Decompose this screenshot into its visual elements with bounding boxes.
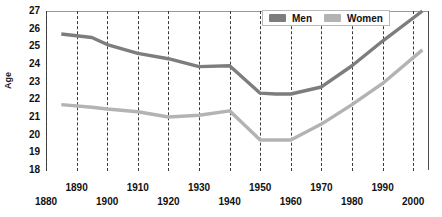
legend-item-men: Men [269,13,312,24]
y-axis-tick-label: 19 [14,147,40,157]
x-axis-tick-label: 1920 [157,196,179,207]
x-axis-tick-label: 1890 [65,182,87,193]
legend-label: Men [292,13,312,24]
gridline [352,11,353,171]
x-axis-tick-label: 1970 [310,182,332,193]
y-axis-tick-labels: 27262524232221201918 [14,0,40,217]
y-axis-tick-label: 21 [14,112,40,122]
x-axis-tick-label: 1880 [35,196,57,207]
gridline [107,11,108,171]
x-axis-tick-label: 1930 [188,182,210,193]
plot-area [46,11,429,170]
y-axis-tick-label: 27 [14,6,40,16]
x-axis-tick-label: 1900 [96,196,118,207]
gridline [383,11,384,171]
y-axis-tick-label: 20 [14,130,40,140]
legend-item-women: Women [324,13,383,24]
x-axis-tick-label: 1950 [249,182,271,193]
y-axis-tick-label: 22 [14,94,40,104]
legend-swatch-icon [324,14,341,22]
x-axis-tick-label: 1960 [280,196,302,207]
gridline [199,11,200,171]
x-axis-tick-label: 2000 [402,196,424,207]
gridline [77,11,78,171]
gridline [168,11,169,171]
chart-screenshot: Age 27262524232221201918 MenWomen 188018… [0,0,442,217]
gridline [321,11,322,171]
x-axis-tick-label: 1940 [218,196,240,207]
plot-right-border [428,11,429,170]
y-axis-title: Age [3,73,13,89]
gridline [138,11,139,171]
chart-legend: MenWomen [262,10,390,26]
gridline [260,11,261,171]
gridline [291,11,292,171]
legend-label: Women [347,13,383,24]
legend-swatch-icon [269,14,286,22]
y-axis-tick-label: 24 [14,59,40,69]
gridline [413,11,414,171]
x-axis-tick-label: 1910 [127,182,149,193]
y-axis-tick-label: 25 [14,41,40,51]
x-axis-tick-label: 1990 [371,182,393,193]
x-axis-tick-label: 1980 [341,196,363,207]
y-axis-tick-label: 23 [14,77,40,87]
gridline [46,11,47,171]
y-axis-tick-label: 18 [14,165,40,175]
y-axis-tick-label: 26 [14,24,40,34]
gridline [230,11,231,171]
